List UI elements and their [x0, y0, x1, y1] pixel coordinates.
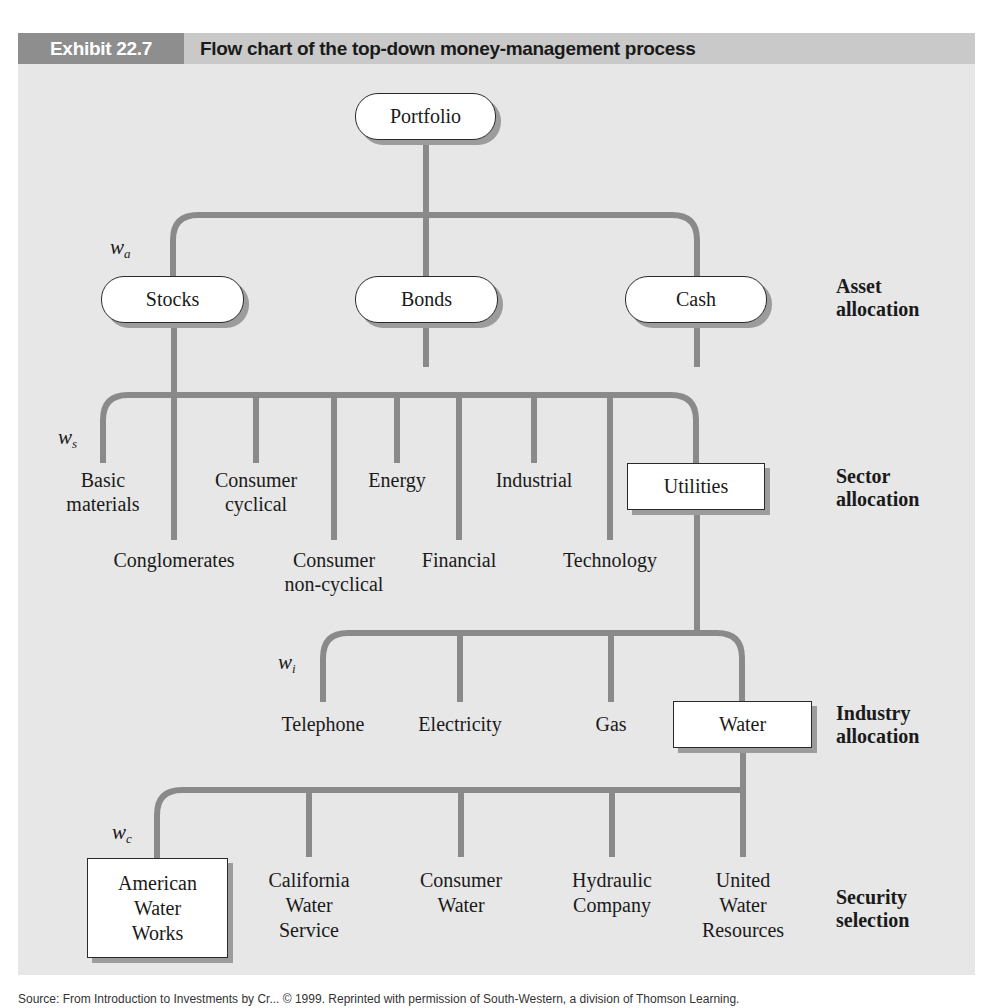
- connector-asset-bar: [173, 215, 697, 276]
- security-consumer-water: ConsumerWater: [420, 868, 502, 918]
- weight-asset: wa: [110, 235, 131, 262]
- weight-industry: wi: [278, 650, 296, 677]
- sector-consumer-non-cyclical: Consumernon-cyclical: [285, 548, 384, 596]
- node-american-water-works: American Water Works: [87, 858, 228, 958]
- node-label: Portfolio: [390, 105, 461, 128]
- security-united-water-resources: UnitedWaterResources: [702, 868, 784, 943]
- industry-telephone: Telephone: [281, 712, 364, 736]
- node-utilities: Utilities: [627, 463, 765, 510]
- node-stocks: Stocks: [101, 276, 244, 323]
- node-cash: Cash: [625, 276, 767, 323]
- weight-sector: ws: [58, 425, 77, 452]
- sector-conglomerates: Conglomerates: [113, 548, 234, 572]
- level-security-selection: Securityselection: [836, 886, 909, 932]
- connector-security-bar: [157, 790, 743, 858]
- industry-gas: Gas: [595, 712, 626, 736]
- sector-financial: Financial: [422, 548, 496, 572]
- node-label: Stocks: [146, 288, 199, 311]
- level-sector-allocation: Sectorallocation: [836, 465, 919, 511]
- node-water: Water: [673, 701, 812, 748]
- weight-security: wc: [112, 820, 132, 847]
- level-asset-allocation: Assetallocation: [836, 275, 919, 321]
- node-label: Bonds: [401, 288, 452, 311]
- node-label: Cash: [676, 288, 716, 311]
- source-footnote: Source: From Introduction to Investments…: [18, 992, 978, 1008]
- sector-energy: Energy: [368, 468, 425, 492]
- sector-technology: Technology: [563, 548, 657, 572]
- node-label: Water: [719, 713, 766, 736]
- node-bonds: Bonds: [355, 276, 498, 323]
- sector-basic-materials: Basicmaterials: [66, 468, 139, 516]
- sector-consumer-cyclical: Consumercyclical: [215, 468, 297, 516]
- node-portfolio: Portfolio: [355, 93, 496, 140]
- security-california-water-service: CaliforniaWaterService: [268, 868, 349, 943]
- level-industry-allocation: Industryallocation: [836, 702, 919, 748]
- security-hydraulic-company: HydraulicCompany: [572, 868, 652, 918]
- connector-industry-bar: [323, 633, 742, 702]
- node-label: Utilities: [664, 475, 728, 498]
- sector-industrial: Industrial: [496, 468, 573, 492]
- industry-electricity: Electricity: [418, 712, 501, 736]
